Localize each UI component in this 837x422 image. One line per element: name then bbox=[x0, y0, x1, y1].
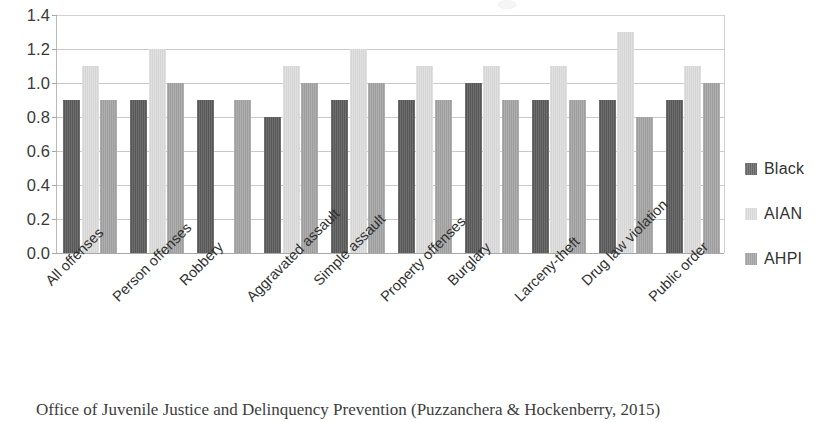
bar bbox=[398, 100, 415, 253]
bar-group bbox=[130, 15, 184, 253]
bar bbox=[416, 66, 433, 253]
bar bbox=[234, 100, 251, 253]
bar-group bbox=[197, 15, 251, 253]
bar bbox=[666, 100, 683, 253]
y-axis-tick-mark bbox=[52, 253, 57, 254]
bar-group bbox=[666, 15, 720, 253]
figure: 1.41.21.00.80.60.40.20.0 All offensesPer… bbox=[0, 0, 837, 422]
y-axis-tick-label: 0.8 bbox=[6, 109, 50, 125]
bar-group bbox=[264, 15, 318, 253]
legend-swatch-icon bbox=[745, 208, 757, 220]
bar bbox=[532, 100, 549, 253]
bar-group bbox=[532, 15, 586, 253]
bar bbox=[283, 66, 300, 253]
figure-caption: Office of Juvenile Justice and Delinquen… bbox=[36, 400, 816, 420]
bar bbox=[465, 83, 482, 253]
y-axis-tick-label: 1.0 bbox=[6, 75, 50, 91]
bar bbox=[264, 117, 281, 253]
chart-legend: BlackAIANAHPI bbox=[745, 160, 837, 270]
legend-item-ahpi[interactable]: AHPI bbox=[745, 250, 802, 268]
legend-item-aian[interactable]: AIAN bbox=[745, 205, 802, 223]
bar-group bbox=[465, 15, 519, 253]
bar bbox=[502, 100, 519, 253]
y-axis-tick-labels: 1.41.21.00.80.60.40.20.0 bbox=[6, 8, 50, 260]
y-axis-tick-label: 1.4 bbox=[6, 7, 50, 23]
bar bbox=[569, 100, 586, 253]
legend-swatch-icon bbox=[745, 253, 757, 265]
legend-label: AIAN bbox=[764, 206, 802, 222]
y-axis-tick-label: 1.2 bbox=[6, 41, 50, 57]
bar bbox=[550, 66, 567, 253]
bar bbox=[684, 66, 701, 253]
bar bbox=[703, 83, 720, 253]
chart-plot-wrapper: 1.41.21.00.80.60.40.20.0 All offensesPer… bbox=[0, 0, 837, 268]
x-axis-category-labels: All offensesPerson offensesRobberyAggrav… bbox=[0, 256, 837, 376]
bar-group bbox=[398, 15, 452, 253]
bar bbox=[149, 49, 166, 253]
y-axis-tick-label: 0.2 bbox=[6, 211, 50, 227]
y-axis-tick-label: 0.6 bbox=[6, 143, 50, 159]
bar bbox=[483, 66, 500, 253]
y-axis-tick-label: 0.4 bbox=[6, 177, 50, 193]
legend-swatch-icon bbox=[745, 163, 757, 175]
bar bbox=[331, 100, 348, 253]
bar bbox=[617, 32, 634, 253]
bar bbox=[100, 100, 117, 253]
bar bbox=[599, 100, 616, 253]
bar bbox=[130, 100, 147, 253]
plot-area bbox=[56, 15, 725, 253]
bar bbox=[197, 100, 214, 253]
legend-label: Black bbox=[764, 161, 804, 177]
bar-groups bbox=[57, 15, 724, 253]
bar-group bbox=[63, 15, 117, 253]
legend-label: AHPI bbox=[764, 251, 802, 267]
legend-item-black[interactable]: Black bbox=[745, 160, 804, 178]
bar bbox=[63, 100, 80, 253]
